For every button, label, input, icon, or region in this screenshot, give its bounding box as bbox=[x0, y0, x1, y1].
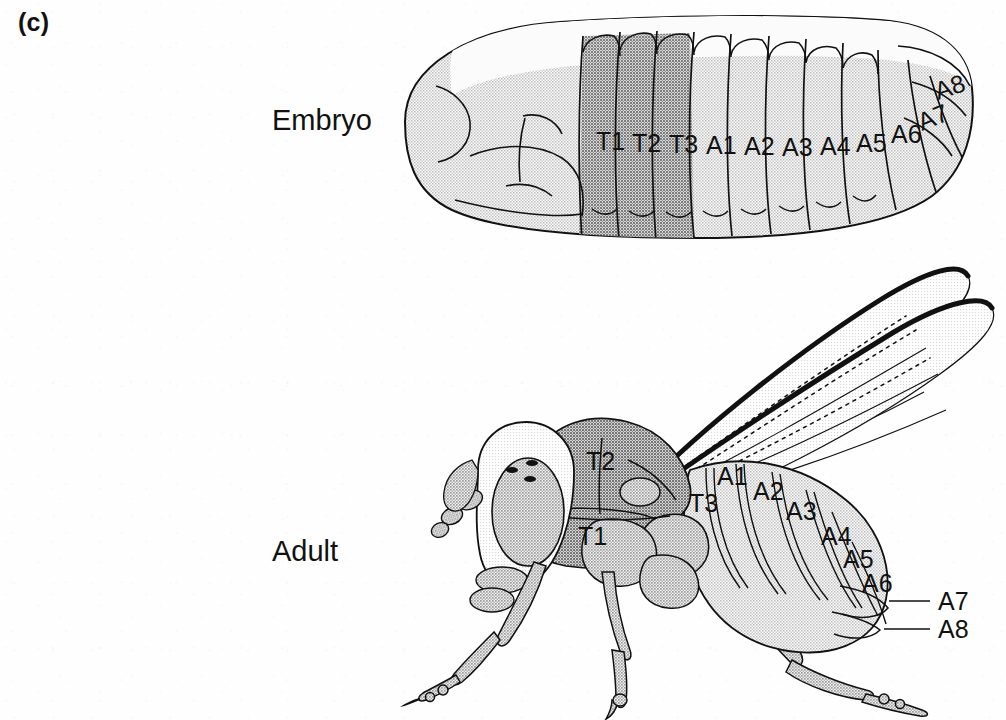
figure-artwork: T1 T2 T3 A1 A2 A3 A4 A5 A6 A7 A8 bbox=[0, 0, 1006, 720]
adult-label-A1: A1 bbox=[717, 462, 748, 490]
embryo-label-A6: A6 bbox=[891, 120, 922, 148]
ocellus-icon bbox=[524, 476, 536, 482]
leg-fore-claw bbox=[400, 698, 420, 707]
adult-label-T1: T1 bbox=[578, 522, 607, 550]
figure-canvas: (c) Embryo Adult bbox=[0, 0, 1006, 720]
leg-hind-tibia bbox=[786, 660, 874, 700]
leg-fore-tibia bbox=[452, 632, 500, 684]
embryo-label-T1: T1 bbox=[596, 127, 625, 155]
leg-fore-tarsal-joint bbox=[438, 685, 448, 695]
ocellus-icon bbox=[526, 460, 538, 466]
leg-hind-tarsal-joint bbox=[896, 700, 905, 709]
ocellus-icon bbox=[506, 467, 518, 473]
embryo-label-A3: A3 bbox=[782, 133, 813, 161]
adult-label-A2: A2 bbox=[753, 477, 784, 505]
adult-compound-eye bbox=[492, 458, 564, 566]
embryo-label-A4: A4 bbox=[820, 132, 851, 160]
adult-label-A3: A3 bbox=[786, 497, 817, 525]
adult-label-A8: A8 bbox=[938, 615, 969, 643]
adult-label-A7: A7 bbox=[938, 587, 969, 615]
embryo-label-A1: A1 bbox=[706, 131, 737, 159]
embryo-label-A2: A2 bbox=[744, 132, 775, 160]
plate-haltere-base bbox=[620, 478, 660, 506]
embryo-label-A5: A5 bbox=[856, 129, 887, 157]
adult-label-T2: T2 bbox=[586, 447, 615, 475]
embryo-label-T2: T2 bbox=[632, 129, 661, 157]
embryo-diagram: T1 T2 T3 A1 A2 A3 A4 A5 A6 A7 A8 bbox=[405, 16, 973, 240]
embryo-label-T3: T3 bbox=[669, 130, 698, 158]
leg-hind-tarsus bbox=[862, 694, 927, 716]
leg-hind-tarsal-joint bbox=[879, 694, 889, 704]
leg-fore-tarsal-joint bbox=[426, 693, 435, 702]
leg-mid-joint bbox=[613, 694, 627, 706]
adult-diagram: T1 T2 T3 A1 A2 A3 A4 A5 A6 A7 A8 bbox=[400, 269, 994, 719]
adult-label-T3: T3 bbox=[689, 489, 718, 517]
adult-label-A6: A6 bbox=[862, 569, 893, 597]
